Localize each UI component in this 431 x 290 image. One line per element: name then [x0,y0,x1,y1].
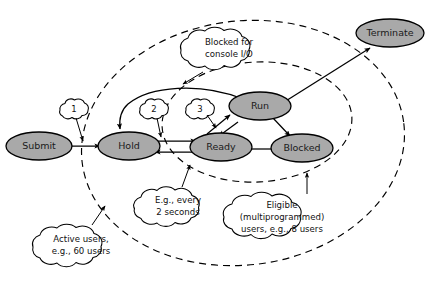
callout-every-2-seconds: E.g., every 2 seconds [134,165,201,226]
eligible-users-line-2: (multiprogrammed) [240,212,324,222]
edge-line [120,88,243,129]
marker-cloud-2: 2 [140,99,169,137]
ready-label: Ready [206,141,236,152]
edge-line [273,118,290,136]
callout-eligible-users: Eligible (multiprogrammed) users, e.g., … [223,173,324,239]
marker-cloud-1: 1 [60,99,89,141]
marker-3-label: 3 [197,104,202,114]
state-node-hold[interactable]: Hold [98,132,160,160]
diagram-canvas: Submit Hold Ready Run Blocked Terminate … [0,0,431,290]
marker-3-pointer [207,115,216,128]
blocked-console-io-pointer [183,72,203,84]
every-2-seconds-line-2: 2 seconds [156,207,200,217]
terminate-label: Terminate [365,27,413,38]
state-node-terminate[interactable]: Terminate [356,19,424,47]
active-users-line-1: Active users, [53,234,108,244]
every-2-seconds-pointer [182,165,190,187]
state-node-ready[interactable]: Ready [190,133,252,161]
active-users-line-2: e.g., 60 users [52,246,111,256]
blocked-console-io-line-1: Blocked for [205,37,254,47]
submit-label: Submit [22,140,56,151]
edge-run-to-blocked [273,118,290,136]
callout-blocked-console-io: Blocked for console I/O [180,27,253,84]
marker-1-pointer [76,118,83,141]
marker-cloud-3: 3 [186,99,216,128]
callout-active-users: Active users, e.g., 60 users [32,206,110,267]
state-node-submit[interactable]: Submit [6,132,72,160]
every-2-seconds-line-1: E.g., every [155,195,201,205]
hold-label: Hold [118,140,140,151]
state-transition-diagram: Submit Hold Ready Run Blocked Terminate … [0,0,431,290]
blocked-console-io-line-2: console I/O [205,49,253,59]
marker-1-label: 1 [71,104,76,114]
blocked-label: Blocked [283,142,320,153]
run-label: Run [251,100,269,111]
edge-run-to-terminate [281,48,370,104]
edge-run-to-hold [120,88,243,129]
marker-2-pointer [157,118,161,137]
marker-2-label: 2 [151,104,156,114]
edge-line [281,48,370,104]
state-node-blocked[interactable]: Blocked [271,134,333,162]
eligible-users-line-1: Eligible [266,200,297,210]
active-users-pointer [92,206,105,225]
eligible-users-line-3: users, e.g., 8 users [241,224,323,234]
state-node-run[interactable]: Run [229,92,291,120]
